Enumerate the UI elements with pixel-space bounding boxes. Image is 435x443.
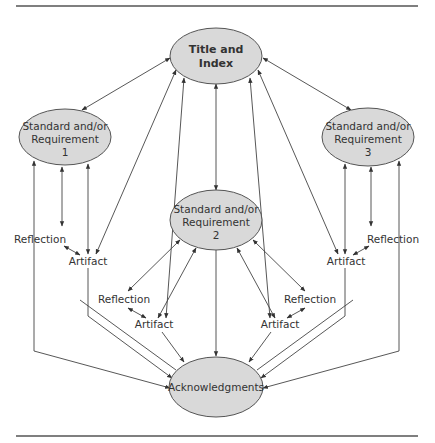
node-standard2-line-2: Requirement — [182, 216, 250, 228]
edge-reflection3-artifact3 — [353, 246, 369, 255]
edge-artifact2b-title — [250, 78, 270, 318]
edge-artifact2a-title — [166, 78, 184, 318]
node-standard1-line-2: Requirement — [31, 133, 99, 145]
node-standard3-line-1: Standard and/or — [325, 120, 411, 132]
label-artifact-3: Artifact — [327, 255, 366, 267]
edge-standard1-acknowledgments — [34, 161, 170, 388]
label-artifact-2b: Artifact — [261, 318, 300, 330]
node-standard1-line-3: 1 — [62, 146, 69, 158]
edge-artifact2a-acknowledgments — [162, 332, 184, 362]
edge-title-standard1 — [82, 58, 170, 110]
label-reflection-3: Reflection — [367, 233, 419, 245]
node-title-index: Title and Index — [170, 28, 262, 84]
node-standard-2: Standard and/or Requirement 2 — [170, 190, 262, 250]
label-reflection-2b: Reflection — [284, 293, 336, 305]
label-artifact-2a: Artifact — [135, 318, 174, 330]
edge-title-standard3 — [263, 58, 351, 110]
edge-standard2-artifact2a — [158, 248, 196, 318]
edge-standard3-acknowledgments — [263, 161, 399, 388]
edge-reflection2a-artifact2a — [128, 308, 146, 318]
node-standard3-line-3: 3 — [365, 146, 372, 158]
edge-artifact1-title — [96, 70, 176, 254]
node-standard-3: Standard and/or Requirement 3 — [322, 108, 414, 166]
edge-standard2-reflection2b — [253, 240, 305, 291]
edge-standard2-artifact2b — [237, 248, 275, 318]
node-acknowledgments: Acknowledgments — [168, 357, 264, 417]
edge-artifact3-title — [258, 70, 338, 254]
node-standard2-line-3: 2 — [213, 229, 220, 241]
label-reflection-2a: Reflection — [98, 293, 150, 305]
node-standard2-line-1: Standard and/or — [173, 203, 259, 215]
node-standard3-line-2: Requirement — [334, 133, 402, 145]
edge-reflection2b-artifact2b — [287, 308, 305, 318]
node-standard1-line-1: Standard and/or — [22, 120, 108, 132]
node-acknowledgments-label: Acknowledgments — [168, 381, 264, 393]
node-title-line-1: Title and — [189, 43, 244, 56]
node-standard-1: Standard and/or Requirement 1 — [19, 109, 111, 165]
label-reflection-1: Reflection — [14, 233, 66, 245]
edge-artifact2b-acknowledgments — [249, 332, 271, 362]
portfolio-structure-diagram: Title and Index Standard and/or Requirem… — [0, 0, 435, 443]
node-title-line-2: Index — [199, 57, 233, 70]
label-artifact-1: Artifact — [69, 255, 108, 267]
edge-reflection1-artifact1 — [64, 246, 80, 255]
edge-standard2-reflection2a — [128, 240, 180, 291]
